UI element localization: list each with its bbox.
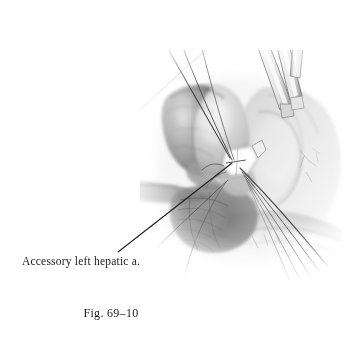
figure-caption: Fig. 69–10 xyxy=(0,306,222,321)
surgical-illustration xyxy=(0,0,350,342)
figure-root: Accessory left hepatic a. Fig. 69–10 xyxy=(0,0,350,342)
annotation-accessory-left-hepatic-artery: Accessory left hepatic a. xyxy=(22,255,140,267)
